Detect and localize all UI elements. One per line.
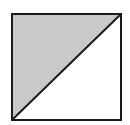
- diagram-canvas: [0, 0, 130, 125]
